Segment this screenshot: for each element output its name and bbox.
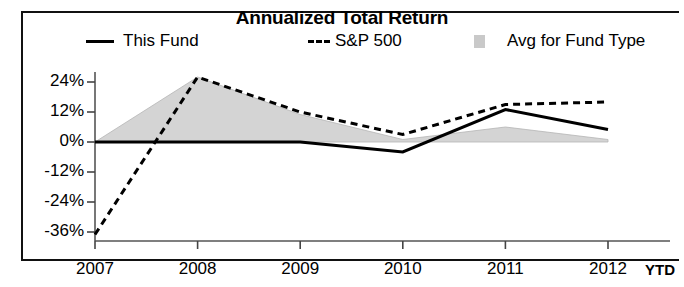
y-axis-tick-label-2: 0% bbox=[18, 131, 84, 151]
x-axis-tick-label-0: 2007 bbox=[60, 259, 130, 279]
plot-area bbox=[0, 0, 684, 287]
y-axis-tick-label-5: -36% bbox=[18, 221, 84, 241]
x-axis-tick-label-3: 2010 bbox=[368, 259, 438, 279]
x-axis-tick-label-1: 2008 bbox=[163, 259, 233, 279]
annualized-total-return-chart: Annualized Total Return This Fund S&P 50… bbox=[0, 0, 684, 287]
y-axis-tick-label-3: -12% bbox=[18, 161, 84, 181]
y-axis-tick-label-1: 12% bbox=[18, 101, 84, 121]
avg-for-fund-type-band bbox=[95, 77, 608, 142]
x-axis-tick-label-2: 2009 bbox=[265, 259, 335, 279]
x-axis-tick-label-4: 2011 bbox=[470, 259, 540, 279]
y-axis-tick-label-4: -24% bbox=[18, 191, 84, 211]
y-axis-tick-label-0: 24% bbox=[18, 71, 84, 91]
x-axis-ytd-label: YTD bbox=[645, 261, 675, 278]
x-axis-tick-label-5: 2012 bbox=[573, 259, 643, 279]
